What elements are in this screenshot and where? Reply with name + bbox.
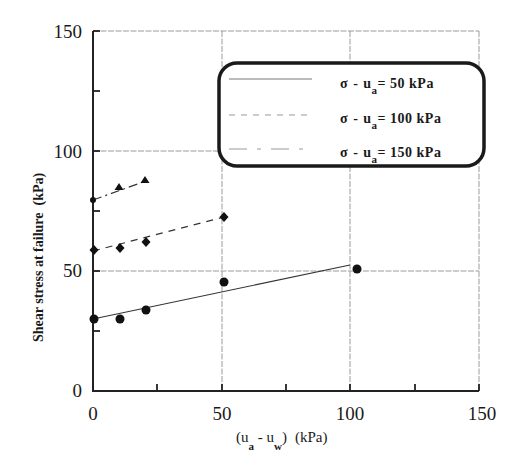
x-axis-title: (ua - uw)(kPa) (236, 429, 327, 452)
point-100kpa-50 (220, 212, 229, 222)
y-tick-100: 100 (54, 141, 83, 162)
point-50kpa-100 (353, 265, 362, 274)
xlabel-close: ) (282, 429, 287, 446)
series-50kpa (90, 265, 362, 324)
point-100kpa-20 (142, 237, 151, 247)
point-100kpa-0 (90, 245, 99, 255)
legend-sigma: σ (340, 76, 348, 91)
point-150kpa-0 (90, 197, 96, 203)
svg-text:(ua - uw)(kPa): (ua - uw)(kPa) (236, 429, 327, 452)
x-tick-100: 100 (336, 403, 365, 424)
xlabel-sub-w: w (274, 440, 282, 452)
point-150kpa-20 (141, 176, 150, 183)
chart-canvas: 0 50 100 150 0 50 100 150 (ua - uw)(kPa)… (0, 0, 532, 470)
y-tick-0: 0 (73, 380, 83, 401)
point-50kpa-0 (90, 315, 99, 324)
x-tick-labels: 0 50 100 150 (88, 403, 496, 424)
legend-sigma: σ (340, 111, 348, 126)
legend-sigma: σ (340, 145, 348, 160)
x-tick-50: 50 (213, 403, 232, 424)
point-150kpa-10 (115, 183, 124, 190)
point-100kpa-10 (116, 243, 125, 253)
legend: σ-ua= 50 kPa σ-ua= 100 kPa σ-ua= 150 kPa (219, 63, 484, 166)
y-axis-title: Shear stress at failure (kPa) (31, 173, 47, 342)
point-50kpa-10 (116, 315, 125, 324)
x-tick-150: 150 (468, 403, 497, 424)
y-tick-labels: 0 50 100 150 (54, 21, 83, 401)
fit-line-100kpa (93, 217, 224, 251)
series-150kpa (90, 176, 150, 203)
y-tick-150: 150 (54, 21, 83, 42)
point-50kpa-50 (220, 278, 229, 287)
series-100kpa (90, 212, 229, 255)
x-tick-0: 0 (88, 403, 98, 424)
xlabel-mid: - u (254, 429, 274, 445)
point-50kpa-20 (142, 306, 151, 315)
xlabel-open: (u (236, 429, 249, 446)
xlabel-unit: (kPa) (295, 429, 328, 446)
y-tick-50: 50 (63, 260, 82, 281)
